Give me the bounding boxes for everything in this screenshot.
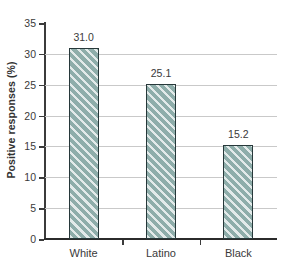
bar [223,145,253,239]
x-axis-category-label: Black [198,247,278,259]
y-axis-tick-label: 25 [12,79,36,91]
bar-value-label: 15.2 [208,128,268,140]
y-axis-tick-label: 15 [12,140,36,152]
bar [146,84,176,239]
y-axis-tick-label: 35 [12,17,36,29]
bar [69,48,99,239]
y-axis-tick-label: 30 [12,48,36,60]
y-axis-tick-mark [39,54,44,56]
bar-chart: Positive responses (%) 05101520253035 Wh… [0,0,293,271]
bar-value-label: 31.0 [54,31,114,43]
y-axis-tick-label: 10 [12,171,36,183]
y-axis-tick-mark [39,146,44,148]
x-axis-category-label: White [44,247,124,259]
x-axis-category-label: Latino [121,247,201,259]
y-axis-tick-mark [39,23,44,25]
y-axis-tick-mark [39,208,44,210]
y-axis-tick-mark [39,116,44,118]
x-axis-tick-mark [200,240,202,245]
x-axis-tick-mark [122,240,124,245]
y-axis-tick-mark [39,177,44,179]
y-axis-tick-label: 5 [12,202,36,214]
y-axis-tick-label: 20 [12,110,36,122]
y-axis-tick-label: 0 [12,233,36,245]
y-axis-tick-mark [39,239,44,241]
y-axis-tick-mark [39,85,44,87]
bar-value-label: 25.1 [131,67,191,79]
